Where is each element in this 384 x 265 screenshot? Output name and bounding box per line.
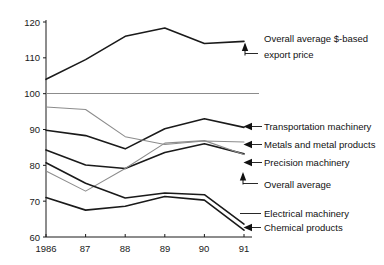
x-tick-label: 88	[120, 243, 131, 254]
annotation-label-chemical: Chemical products	[264, 222, 343, 233]
annotation-label-transportation: Transportation machinery	[264, 121, 372, 132]
y-tick-label: 80	[29, 160, 40, 171]
x-tick-label: 90	[199, 243, 210, 254]
annotation-label-overall-dollar-line1: Overall average $-based	[264, 33, 368, 44]
line-chart: 120 110 100 90 80 70 60 1986 87 88 89 90…	[0, 0, 384, 265]
y-tick-label: 60	[29, 232, 40, 243]
annotation-label-overall-average: Overall average	[264, 179, 331, 190]
x-tick-label: 1986	[35, 243, 56, 254]
x-tick-label: 91	[239, 243, 250, 254]
y-tick-label: 100	[24, 88, 40, 99]
annotation-label-electrical: Electrical machinery	[264, 208, 349, 219]
x-tick-label: 89	[160, 243, 171, 254]
annotation-label-overall-dollar-line2: export price	[264, 49, 314, 60]
chart-container: 120 110 100 90 80 70 60 1986 87 88 89 90…	[0, 0, 384, 265]
y-tick-label: 90	[29, 124, 40, 135]
y-tick-label: 110	[25, 52, 40, 63]
y-tick-label: 120	[24, 17, 40, 28]
y-tick-label: 70	[29, 196, 40, 207]
annotation-label-metals: Metals and metal products	[264, 139, 376, 150]
x-tick-label: 87	[80, 243, 91, 254]
annotation-label-precision: Precision machinery	[264, 157, 350, 168]
